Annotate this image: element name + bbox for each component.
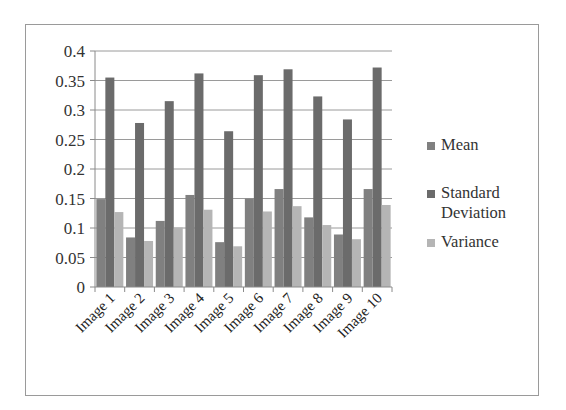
- bar-variance: [293, 206, 302, 287]
- legend-label: Variance: [441, 232, 531, 252]
- y-tick-label: 0.3: [64, 101, 85, 120]
- y-tick-label: 0.2: [64, 160, 85, 179]
- legend-item-variance: Variance: [427, 232, 531, 252]
- y-tick-label: 0.4: [64, 42, 86, 61]
- bar-standard-deviation: [343, 119, 352, 287]
- bar-standard-deviation: [105, 78, 114, 287]
- y-tick-label: 0.15: [55, 190, 85, 209]
- bar-variance: [174, 227, 183, 287]
- bar-variance: [203, 210, 212, 287]
- bar-variance: [352, 239, 361, 287]
- bar-standard-deviation: [254, 75, 263, 287]
- legend-label: Standard Deviation: [441, 183, 531, 223]
- bar-mean: [185, 195, 194, 287]
- y-tick-label: 0: [77, 278, 86, 297]
- bar-mean: [215, 242, 224, 287]
- y-tick-label: 0.25: [55, 131, 85, 150]
- legend-swatch-mean: [427, 142, 435, 150]
- bar-mean: [364, 189, 373, 287]
- bar-variance: [233, 246, 242, 287]
- bar-variance: [114, 212, 123, 287]
- bar-mean: [126, 237, 135, 287]
- bar-mean: [96, 199, 105, 287]
- bar-mean: [304, 217, 313, 287]
- legend-swatch-standard-deviation: [427, 190, 435, 198]
- bar-variance: [144, 241, 153, 287]
- bar-mean: [245, 199, 254, 288]
- bar-standard-deviation: [135, 123, 144, 287]
- legend-item-mean: Mean: [427, 135, 531, 155]
- legend-swatch-variance: [427, 239, 435, 247]
- legend-item-standard-deviation: Standard Deviation: [427, 183, 531, 223]
- bar-standard-deviation: [373, 68, 382, 287]
- bar-variance: [322, 225, 331, 287]
- y-tick-label: 0.35: [55, 72, 85, 91]
- bar-standard-deviation: [284, 69, 293, 287]
- bar-standard-deviation: [313, 96, 322, 287]
- bar-mean: [156, 221, 165, 287]
- bar-mean: [275, 189, 284, 287]
- bar-standard-deviation: [194, 73, 203, 287]
- legend-label: Mean: [441, 135, 531, 155]
- bar-variance: [263, 211, 272, 287]
- y-tick-label: 0.05: [55, 249, 85, 268]
- y-tick-label: 0.1: [64, 219, 85, 238]
- bar-standard-deviation: [224, 131, 233, 287]
- bar-mean: [334, 234, 343, 287]
- bar-variance: [382, 205, 391, 287]
- bar-standard-deviation: [165, 101, 174, 287]
